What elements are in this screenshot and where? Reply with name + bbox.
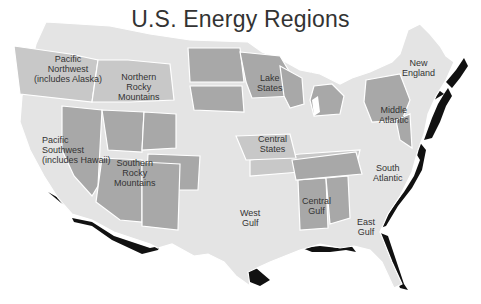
label-pacific-southwest: PacificSouthwest(includes Hawaii) bbox=[42, 135, 111, 165]
label-middle-atlantic: MiddleAtlantic bbox=[379, 105, 409, 125]
label-west-gulf: WestGulf bbox=[240, 208, 260, 228]
label-southern-rocky-mountains: SouthernRockyMountains bbox=[114, 158, 156, 188]
label-northern-rocky-mountains: NorthernRockyMountains bbox=[118, 72, 160, 102]
label-central-states: CentralStates bbox=[258, 134, 287, 154]
label-east-gulf: EastGulf bbox=[357, 217, 375, 237]
label-central-gulf: CentralGulf bbox=[302, 196, 331, 216]
label-lake-states: LakeStates bbox=[257, 73, 283, 93]
label-south-atlantic: SouthAtlantic bbox=[373, 163, 403, 183]
label-pacific-northwest: PacificNorthwest(includes Alaska) bbox=[34, 54, 102, 84]
label-new-england: NewEngland bbox=[402, 58, 435, 78]
